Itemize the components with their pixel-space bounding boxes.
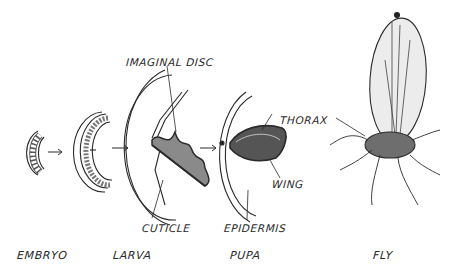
thorax-label: THORAX bbox=[280, 114, 329, 126]
imaginal-disc-pointer bbox=[167, 66, 176, 132]
arrow-icon bbox=[48, 149, 62, 155]
imaginal-disc-label: IMAGINAL DISC bbox=[126, 56, 215, 68]
epidermis-pointer bbox=[247, 190, 248, 220]
fly-drawing bbox=[330, 13, 440, 206]
embryo-drawing bbox=[27, 131, 44, 175]
larva-drawing bbox=[73, 112, 112, 192]
stage-label-embryo: EMBRYO bbox=[17, 249, 68, 262]
arrow-icon bbox=[200, 145, 216, 151]
thorax-pointer-fly bbox=[336, 118, 365, 136]
fly-development-diagram: IMAGINAL DISC CUTICLE EPIDERMIS THORAX W… bbox=[0, 0, 460, 277]
stage-label-pupa: PUPA bbox=[230, 249, 262, 262]
cuticle-pointer bbox=[152, 180, 163, 218]
pupa-drawing bbox=[220, 92, 286, 222]
diagram-drawing bbox=[0, 0, 460, 277]
stage-label-fly: FLY bbox=[373, 249, 394, 262]
wing-label: WING bbox=[272, 178, 305, 190]
epidermis-label: EPIDERMIS bbox=[224, 222, 287, 234]
stage-label-larva: LARVA bbox=[113, 249, 153, 262]
imaginal-disc-drawing bbox=[124, 70, 209, 225]
cuticle-label: CUTICLE bbox=[142, 222, 191, 234]
wing-pointer bbox=[270, 160, 280, 178]
